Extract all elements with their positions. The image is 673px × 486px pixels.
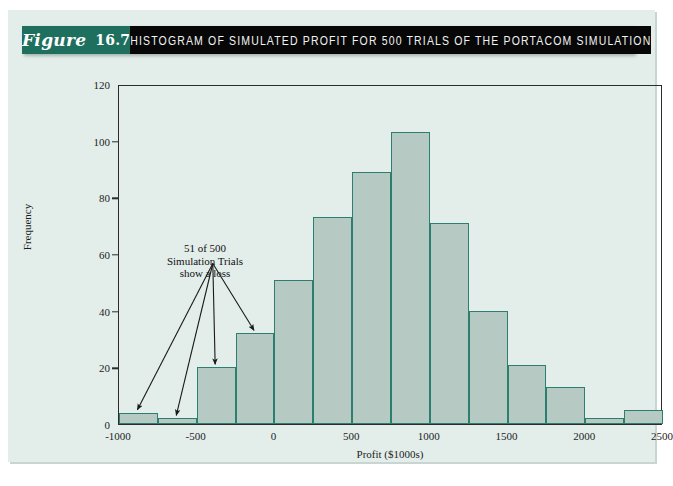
x-tick-label: 2500 — [651, 430, 673, 442]
histogram-bar — [546, 387, 585, 424]
histogram-bar — [119, 413, 158, 424]
x-tick-label: 500 — [343, 430, 360, 442]
histogram-bar — [352, 172, 391, 424]
histogram-chart: Frequency 020406080100120 -1000-50005001… — [22, 66, 642, 456]
annotation-line-1: 51 of 500 — [140, 242, 270, 255]
loss-annotation: 51 of 500 Simulation Trials show a loss — [140, 242, 270, 280]
histogram-bar — [274, 280, 313, 425]
histogram-bar — [624, 410, 663, 424]
x-axis-label: Profit ($1000s) — [118, 448, 662, 460]
y-tick-label: 80 — [24, 192, 110, 204]
y-tick-label: 100 — [24, 136, 110, 148]
figure-number-block: Figure 16.7 — [22, 26, 130, 54]
histogram-bar — [508, 365, 547, 425]
x-tick-label: -500 — [186, 430, 206, 442]
histogram-bar — [585, 418, 624, 424]
x-tick-label: 1500 — [496, 430, 518, 442]
y-tick-label: 120 — [24, 79, 110, 91]
figure-title-banner: HISTOGRAM OF SIMULATED PROFIT FOR 500 TR… — [130, 26, 651, 54]
figure-title-text: HISTOGRAM OF SIMULATED PROFIT FOR 500 TR… — [130, 33, 651, 47]
histogram-bar — [391, 132, 430, 424]
y-tick-label: 0 — [24, 419, 110, 431]
figure-title-bar: Figure 16.7 HISTOGRAM OF SIMULATED PROFI… — [22, 26, 634, 54]
histogram-bar — [469, 311, 508, 424]
histogram-bar — [197, 367, 236, 424]
figure-word-label: Figure — [22, 30, 86, 50]
histogram-bar — [430, 223, 469, 424]
x-tick-label: 2000 — [573, 430, 595, 442]
annotation-line-3: show a loss — [140, 267, 270, 280]
histogram-bar — [313, 217, 352, 424]
annotation-line-2: Simulation Trials — [140, 255, 270, 268]
y-axis-label: Frequency — [21, 204, 33, 250]
x-tick-label: 1000 — [418, 430, 440, 442]
figure-number-label: 16.7 — [95, 32, 130, 48]
y-tick-label: 60 — [24, 249, 110, 261]
histogram-bar — [158, 418, 197, 424]
x-tick-label: 0 — [271, 430, 277, 442]
y-tick-label: 40 — [24, 306, 110, 318]
x-tick-label: -1000 — [105, 430, 131, 442]
y-tick-label: 20 — [24, 362, 110, 374]
histogram-bar — [236, 333, 275, 424]
